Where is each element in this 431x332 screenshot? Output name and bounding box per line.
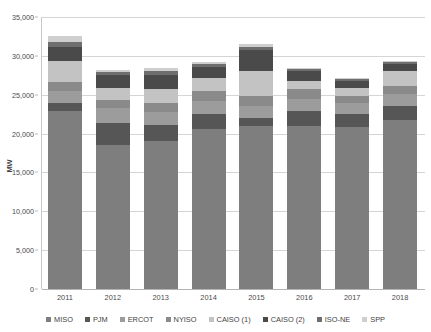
bar-segment[interactable] bbox=[383, 94, 417, 106]
bar-segment[interactable] bbox=[48, 111, 82, 289]
bar-segment[interactable] bbox=[144, 125, 178, 141]
y-axis-tick-mark bbox=[35, 172, 38, 173]
y-axis-tick-label: 0 bbox=[30, 285, 34, 294]
bar-stack[interactable] bbox=[192, 62, 226, 289]
y-axis-tick-mark bbox=[35, 289, 38, 290]
bar-segment[interactable] bbox=[96, 75, 130, 88]
legend-swatch-icon bbox=[46, 317, 51, 322]
legend-item[interactable]: MISO bbox=[46, 315, 73, 324]
y-axis-tick-mark bbox=[35, 133, 38, 134]
legend-swatch-icon bbox=[120, 317, 125, 322]
bar-segment[interactable] bbox=[239, 126, 273, 289]
bar-segment[interactable] bbox=[287, 126, 321, 289]
bar-segment[interactable] bbox=[239, 71, 273, 95]
legend-item[interactable]: ISO-NE bbox=[317, 315, 350, 324]
bar-segment[interactable] bbox=[192, 114, 226, 129]
y-axis-tick-label: 5,000 bbox=[16, 246, 34, 255]
y-axis-tick-label: 20,000 bbox=[12, 129, 34, 138]
y-axis-tick-label: 30,000 bbox=[12, 51, 34, 60]
bar-segment[interactable] bbox=[192, 67, 226, 79]
bar-segment[interactable] bbox=[383, 120, 417, 289]
bar-segment[interactable] bbox=[335, 114, 369, 127]
bar-segment[interactable] bbox=[192, 78, 226, 90]
legend-item-label: MISO bbox=[54, 315, 73, 324]
bar-segment[interactable] bbox=[287, 111, 321, 126]
y-axis-tick-label: 35,000 bbox=[12, 13, 34, 22]
bar-segment[interactable] bbox=[144, 141, 178, 289]
bar-segment[interactable] bbox=[287, 99, 321, 111]
y-axis-tick-label: 10,000 bbox=[12, 207, 34, 216]
bar-stack[interactable] bbox=[144, 68, 178, 289]
legend-item[interactable]: SPP bbox=[362, 315, 385, 324]
legend-item-label: SPP bbox=[370, 315, 385, 324]
legend-item-label: NYISO bbox=[174, 315, 197, 324]
bar-segment[interactable] bbox=[48, 103, 82, 112]
bar-segment[interactable] bbox=[239, 50, 273, 72]
legend-item[interactable]: ERCOT bbox=[120, 315, 154, 324]
bar-segment[interactable] bbox=[335, 88, 369, 96]
bar-segment[interactable] bbox=[287, 71, 321, 81]
legend-item[interactable]: PJM bbox=[85, 315, 108, 324]
bar-segment[interactable] bbox=[287, 81, 321, 89]
bar-segment[interactable] bbox=[239, 106, 273, 118]
bar-segment[interactable] bbox=[239, 96, 273, 106]
bar-segment[interactable] bbox=[96, 108, 130, 124]
bar-stack[interactable] bbox=[239, 44, 273, 289]
bar-segment[interactable] bbox=[96, 123, 130, 145]
legend-swatch-icon bbox=[209, 317, 214, 322]
y-axis-ticks: 05,00010,00015,00020,00025,00030,00035,0… bbox=[0, 17, 38, 289]
bar-segment[interactable] bbox=[48, 61, 82, 81]
bar-segment[interactable] bbox=[144, 112, 178, 125]
bar-segment[interactable] bbox=[96, 88, 130, 100]
bar-segment[interactable] bbox=[144, 103, 178, 112]
bar-stack[interactable] bbox=[335, 78, 369, 289]
x-axis-tick-label: 2013 bbox=[137, 293, 185, 302]
bar-segment[interactable] bbox=[144, 89, 178, 103]
bar-segment[interactable] bbox=[192, 101, 226, 114]
bar-segment[interactable] bbox=[48, 91, 82, 103]
bar-stack[interactable] bbox=[383, 61, 417, 289]
bar-segment[interactable] bbox=[335, 81, 369, 88]
bar-stack[interactable] bbox=[48, 36, 82, 289]
bar-segment[interactable] bbox=[383, 86, 417, 94]
bar-segment[interactable] bbox=[383, 106, 417, 119]
y-axis-tick-mark bbox=[35, 250, 38, 251]
bar-segment[interactable] bbox=[335, 127, 369, 289]
bar-segment[interactable] bbox=[48, 47, 82, 62]
legend-item-label: ISO-NE bbox=[325, 315, 350, 324]
bar-stack[interactable] bbox=[287, 68, 321, 289]
bar-segment[interactable] bbox=[48, 82, 82, 91]
legend-swatch-icon bbox=[317, 317, 322, 322]
legend-item-label: CAISO (2) bbox=[271, 315, 305, 324]
bar-segment[interactable] bbox=[192, 129, 226, 289]
legend-swatch-icon bbox=[85, 317, 90, 322]
bar-segment[interactable] bbox=[335, 103, 369, 115]
x-axis-labels: 20112012201320142015201620172018 bbox=[41, 289, 424, 309]
legend-item[interactable]: CAISO (1) bbox=[209, 315, 251, 324]
legend-swatch-icon bbox=[263, 317, 268, 322]
y-axis-tick-mark bbox=[35, 94, 38, 95]
y-axis-tick-mark bbox=[35, 211, 38, 212]
bar-stack[interactable] bbox=[96, 70, 130, 289]
x-axis-tick-label: 2017 bbox=[328, 293, 376, 302]
bar-segment[interactable] bbox=[287, 89, 321, 99]
x-axis-tick-label: 2016 bbox=[280, 293, 328, 302]
x-axis-tick-label: 2015 bbox=[232, 293, 280, 302]
bar-segment[interactable] bbox=[383, 71, 417, 86]
legend-swatch-icon bbox=[166, 317, 171, 322]
y-axis-tick-mark bbox=[35, 55, 38, 56]
bar-segment[interactable] bbox=[144, 75, 178, 89]
y-axis-tick-mark bbox=[35, 17, 38, 18]
bar-segment[interactable] bbox=[335, 96, 369, 103]
chart-legend: MISOPJMERCOTNYISOCAISO (1)CAISO (2)ISO-N… bbox=[0, 311, 431, 327]
legend-item-label: PJM bbox=[93, 315, 108, 324]
stacked-bar-chart: MW 05,00010,00015,00020,00025,00030,0003… bbox=[0, 0, 431, 332]
legend-item[interactable]: NYISO bbox=[166, 315, 197, 324]
bar-segment[interactable] bbox=[383, 64, 417, 72]
bar-segment[interactable] bbox=[96, 145, 130, 289]
legend-item[interactable]: CAISO (2) bbox=[263, 315, 305, 324]
x-axis-tick-label: 2018 bbox=[376, 293, 424, 302]
bar-segment[interactable] bbox=[96, 100, 130, 108]
bar-segment[interactable] bbox=[192, 91, 226, 101]
bar-segment[interactable] bbox=[239, 118, 273, 126]
